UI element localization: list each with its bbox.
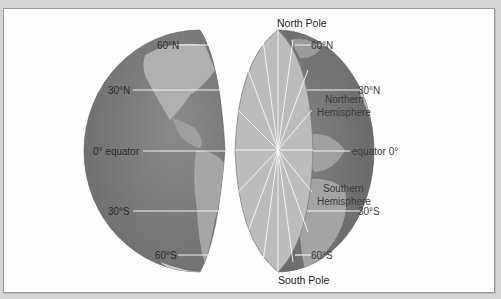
northern-hemisphere-label-1: Northern: [325, 94, 364, 105]
left-label-equator: 0° equator: [93, 146, 140, 157]
left-label-60n: 60°N: [157, 40, 179, 51]
earth-latitude-diagram: 60°N 30°N 0° equator 30°S 60°S: [0, 0, 501, 299]
left-globe: 60°N 30°N 0° equator 30°S 60°S: [84, 30, 228, 275]
right-label-equator: equator 0°: [352, 146, 398, 157]
southern-hemisphere-label-2: Hemisphere: [317, 196, 371, 207]
right-label-60n: 60°N: [311, 40, 333, 51]
left-label-30n: 30°N: [108, 85, 130, 96]
northern-hemisphere-label-2: Hemisphere: [317, 107, 371, 118]
south-pole-label: South Pole: [278, 274, 330, 286]
southern-hemisphere-label-1: Southern: [323, 183, 364, 194]
left-label-30s: 30°S: [108, 206, 130, 217]
right-label-60s: 60°S: [311, 250, 333, 261]
right-label-30s: 30°S: [358, 206, 380, 217]
left-label-60s: 60°S: [155, 250, 177, 261]
right-globe: North Pole South Pole 60°N 30°N equator …: [235, 17, 398, 286]
north-pole-label: North Pole: [277, 17, 327, 29]
